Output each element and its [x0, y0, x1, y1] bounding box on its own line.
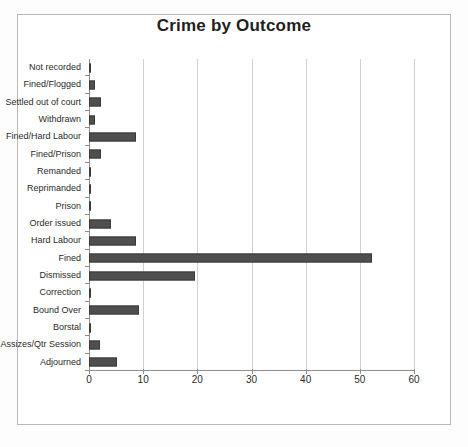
y-axis-label-order-issued: Order issued: [0, 215, 86, 232]
x-axis-label-0: 0: [86, 374, 92, 385]
x-axis-label-10: 10: [138, 374, 149, 385]
y-axis-label-prison: Prison: [0, 198, 86, 215]
chart-title: Crime by Outcome: [0, 16, 468, 36]
bar-prison[interactable]: [89, 202, 91, 211]
bar-hard-labour[interactable]: [89, 236, 136, 245]
x-axis-label-40: 40: [300, 374, 311, 385]
bar-row: [89, 250, 415, 267]
y-axis-label-assizes-qtr-session: Assizes/Qtr Session: [0, 336, 86, 353]
bar-not-recorded[interactable]: [89, 63, 91, 72]
bar-fined-hard-labour[interactable]: [89, 132, 136, 141]
bar-adjourned[interactable]: [89, 358, 117, 367]
bar-row: [89, 267, 415, 284]
bar-row: [89, 163, 415, 180]
y-axis-label-bound-over: Bound Over: [0, 302, 86, 319]
y-axis-label-adjourned: Adjourned: [0, 354, 86, 371]
bar-row: [89, 128, 415, 145]
y-axis-label-fined-hard-labour: Fined/Hard Labour: [0, 128, 86, 145]
y-axis-label-dismissed: Dismissed: [0, 267, 86, 284]
bar-correction[interactable]: [89, 288, 91, 297]
y-axis-label-fined-flogged: Fined/Flogged: [0, 76, 86, 93]
y-axis-category-labels: Not recordedFined/FloggedSettled out of …: [0, 59, 86, 371]
y-axis-label-correction: Correction: [0, 284, 86, 301]
x-axis-tick-labels: 0102030405060: [89, 374, 415, 390]
chart-page: Crime by Outcome Not recordedFined/Flogg…: [0, 0, 468, 447]
plot-area: [89, 59, 415, 371]
y-axis-label-fined-prison: Fined/Prison: [0, 146, 86, 163]
bar-fined[interactable]: [89, 254, 372, 263]
x-axis-label-30: 30: [246, 374, 257, 385]
bar-row: [89, 302, 415, 319]
bar-rows: [89, 59, 415, 371]
y-axis-label-settled-out-of-court: Settled out of court: [0, 94, 86, 111]
bar-withdrawn[interactable]: [89, 115, 95, 124]
bar-row: [89, 111, 415, 128]
y-axis-label-hard-labour: Hard Labour: [0, 232, 86, 249]
bar-row: [89, 76, 415, 93]
x-axis-label-60: 60: [408, 374, 419, 385]
x-axis-label-20: 20: [192, 374, 203, 385]
y-axis-label-reprimanded: Reprimanded: [0, 180, 86, 197]
bar-row: [89, 319, 415, 336]
bar-row: [89, 146, 415, 163]
y-axis-label-borstal: Borstal: [0, 319, 86, 336]
x-axis-label-50: 50: [354, 374, 365, 385]
bar-row: [89, 59, 415, 76]
bar-row: [89, 94, 415, 111]
bar-row: [89, 215, 415, 232]
y-axis-label-not-recorded: Not recorded: [0, 59, 86, 76]
bar-settled-out-of-court[interactable]: [89, 98, 101, 107]
bar-reprimanded[interactable]: [89, 184, 91, 193]
bar-row: [89, 232, 415, 249]
bar-fined-prison[interactable]: [89, 150, 101, 159]
y-axis-label-remanded: Remanded: [0, 163, 86, 180]
bar-dismissed[interactable]: [89, 271, 195, 280]
bar-row: [89, 284, 415, 301]
y-axis-label-withdrawn: Withdrawn: [0, 111, 86, 128]
bar-remanded[interactable]: [89, 167, 91, 176]
bar-row: [89, 180, 415, 197]
bar-assizes-qtr-session[interactable]: [89, 340, 100, 349]
bar-bound-over[interactable]: [89, 306, 139, 315]
y-axis-label-fined: Fined: [0, 250, 86, 267]
bar-order-issued[interactable]: [89, 219, 111, 228]
bar-row: [89, 198, 415, 215]
bar-borstal[interactable]: [89, 323, 91, 332]
bar-fined-flogged[interactable]: [89, 80, 95, 89]
bar-row: [89, 336, 415, 353]
